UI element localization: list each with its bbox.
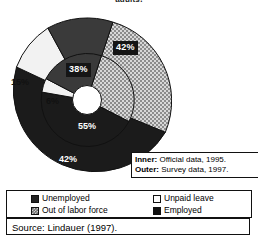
legend-item-unemployed: Unemployed bbox=[31, 193, 108, 204]
legend-swatch-icon-unpaid-leave bbox=[153, 195, 161, 203]
legend-swatch-icon-out-of-labor-force bbox=[31, 207, 39, 215]
legend-swatch-icon-employed bbox=[153, 207, 161, 215]
legend-label-unpaid-leave: Unpaid leave bbox=[164, 193, 214, 204]
note-inner-label: Inner: bbox=[135, 155, 157, 164]
legend-label-employed: Employed bbox=[164, 205, 202, 216]
chart-title: adults! bbox=[0, 0, 258, 4]
legend-item-employed: Employed bbox=[153, 205, 214, 216]
donut-center-hole bbox=[73, 86, 102, 115]
inner-label-employed: 55% bbox=[78, 122, 96, 131]
inner-label-out-of-labor-force: 38% bbox=[66, 63, 91, 77]
outer-label-unpaid-leave: 15% bbox=[11, 78, 29, 87]
legend-label-out-of-labor-force: Out of labor force bbox=[42, 205, 108, 216]
legend-column-left: Unemployed Out of labor force bbox=[31, 193, 108, 217]
note-inner-text: Official data, 1995. bbox=[157, 155, 226, 164]
chart-legend: Unemployed Out of labor force Unpaid lea… bbox=[6, 190, 252, 218]
outer-label-employed: 42% bbox=[59, 155, 77, 164]
data-source-note: Inner: Official data, 1995. Outer: Surve… bbox=[131, 152, 258, 178]
legend-item-unpaid-leave: Unpaid leave bbox=[153, 193, 214, 204]
legend-swatch-icon-unemployed bbox=[31, 195, 39, 203]
legend-column-right: Unpaid leave Employed bbox=[153, 193, 214, 217]
source-citation: Source: Lindauer (1997). bbox=[6, 218, 250, 235]
note-outer-row: Outer: Survey data, 1997. bbox=[135, 165, 256, 175]
note-outer-text: Survey data, 1997. bbox=[159, 165, 228, 174]
legend-label-unemployed: Unemployed bbox=[42, 193, 90, 204]
inner-label-unpaid-leave: 6% bbox=[46, 97, 59, 106]
note-inner-row: Inner: Official data, 1995. bbox=[135, 155, 256, 165]
note-outer-label: Outer: bbox=[135, 165, 159, 174]
outer-label-out-of-labor-force: 42% bbox=[113, 41, 138, 55]
legend-item-out-of-labor-force: Out of labor force bbox=[31, 205, 108, 216]
